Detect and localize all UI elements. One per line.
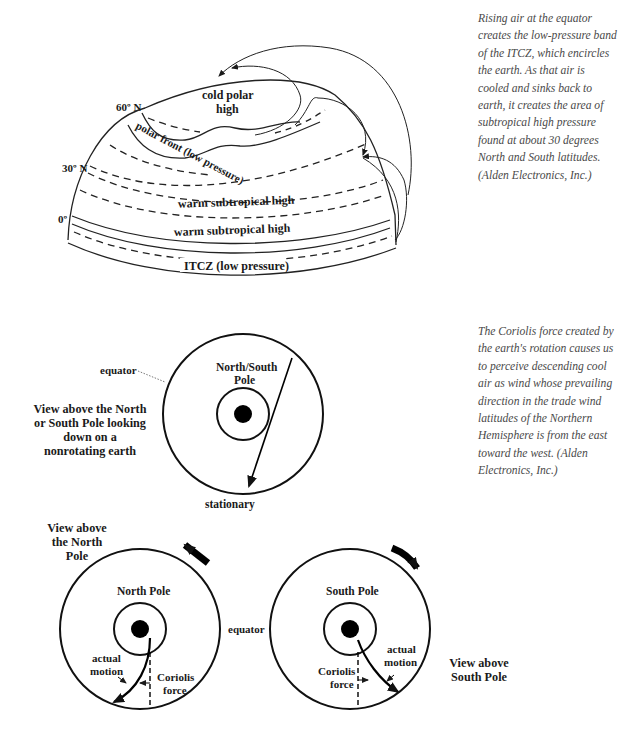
north-coriolis-label-2: force — [163, 684, 187, 696]
circulation-loop-mid — [295, 98, 366, 155]
south-pole-dot — [341, 620, 359, 638]
cold-polar-label-1: cold polar — [202, 88, 254, 102]
south-motion-pointer — [387, 675, 394, 681]
nonrotating-view-label: View above the North or South Pole looki… — [32, 402, 148, 458]
north-motion-pointer — [118, 677, 126, 683]
globe-caption: Rising air at the equator creates the lo… — [478, 10, 618, 184]
north-pole-label: North Pole — [117, 585, 170, 597]
south-actual-label-2: motion — [384, 656, 417, 668]
view-label-line: Pole — [46, 549, 108, 563]
stationary-label: stationary — [205, 498, 255, 511]
equator-leader-dotted — [138, 371, 165, 382]
circulation-loop-subtropical — [363, 157, 407, 240]
equator-label: equator — [100, 364, 137, 376]
globe-pressure-bands-figure — [68, 46, 411, 275]
view-label-line: View above the North — [32, 402, 148, 416]
view-label-line: South Pole — [446, 670, 512, 684]
view-label-line: or South Pole looking — [32, 416, 148, 430]
north-actual-label-2: motion — [90, 665, 123, 677]
pole-dot — [234, 405, 252, 423]
north-pole-dot — [131, 620, 149, 638]
globe-labels: 60º N 30º N 0º cold polar high polar fro… — [58, 88, 295, 273]
south-actual-label-1: actual — [387, 643, 416, 655]
north-view-label: View above the North Pole — [46, 521, 108, 563]
lat60-label: 60º N — [116, 101, 141, 113]
lat30-label: 30º N — [62, 162, 87, 174]
north-actual-label-1: actual — [92, 652, 121, 664]
south-rotation-arrow-icon — [392, 548, 417, 568]
south-view-label: View above South Pole — [446, 656, 512, 684]
cold-polar-label-2: high — [216, 102, 239, 116]
view-label-line: View above — [446, 656, 512, 670]
warm-subtropical-label-1: warm subtropical high — [178, 193, 295, 211]
warm-subtropical-label-2: warm subtropical high — [174, 221, 291, 239]
view-label-line: View above — [46, 521, 108, 535]
view-label-line: nonrotating earth — [32, 444, 148, 458]
pole-label-2: Pole — [234, 374, 255, 386]
polar-front-label: polar front (low pressure) — [134, 119, 247, 187]
stationary-wind-arrow — [249, 358, 292, 486]
north-pole-view-figure: North Pole actual motion Coriolis force — [60, 545, 220, 709]
equator-center-label: equator — [228, 623, 265, 635]
itcz-label: ITCZ (low pressure) — [184, 259, 289, 273]
north-rotation-arrow-icon — [185, 545, 208, 563]
north-coriolis-label-1: Coriolis — [157, 671, 195, 683]
circulation-loop-large — [219, 46, 411, 195]
south-coriolis-label-1: Coriolis — [318, 665, 356, 677]
view-label-line: down on a — [32, 430, 148, 444]
south-coriolis-label-2: force — [330, 678, 354, 690]
south-pole-view-figure: South Pole actual motion Coriolis force — [270, 548, 430, 709]
pole-label-1: North/South — [216, 361, 278, 373]
coriolis-caption: The Coriolis force created by the earth'… — [478, 323, 618, 480]
view-label-line: the North — [46, 535, 108, 549]
lat0-label: 0º — [58, 213, 68, 225]
south-pole-label: South Pole — [326, 585, 379, 597]
